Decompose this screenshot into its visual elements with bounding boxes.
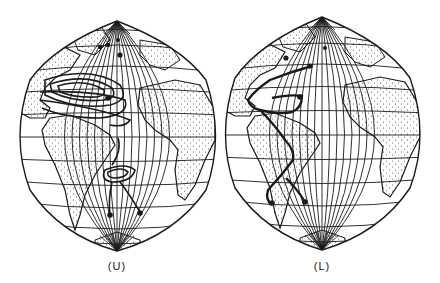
map-panel-upper: (U) xyxy=(0,0,220,283)
panel-label-l: (L) xyxy=(302,260,342,272)
africa-landmass xyxy=(138,80,215,200)
africa-landmass xyxy=(343,77,420,197)
europe-landmass xyxy=(140,40,180,70)
map-l-graphic xyxy=(220,0,440,283)
map-u-graphic xyxy=(0,0,220,283)
station-markers xyxy=(98,38,143,218)
europe-landmass xyxy=(345,37,385,67)
map-panel-lower: (L) xyxy=(220,0,440,283)
panel-label-u: (U) xyxy=(97,260,137,272)
north-america-landmass xyxy=(15,45,80,118)
